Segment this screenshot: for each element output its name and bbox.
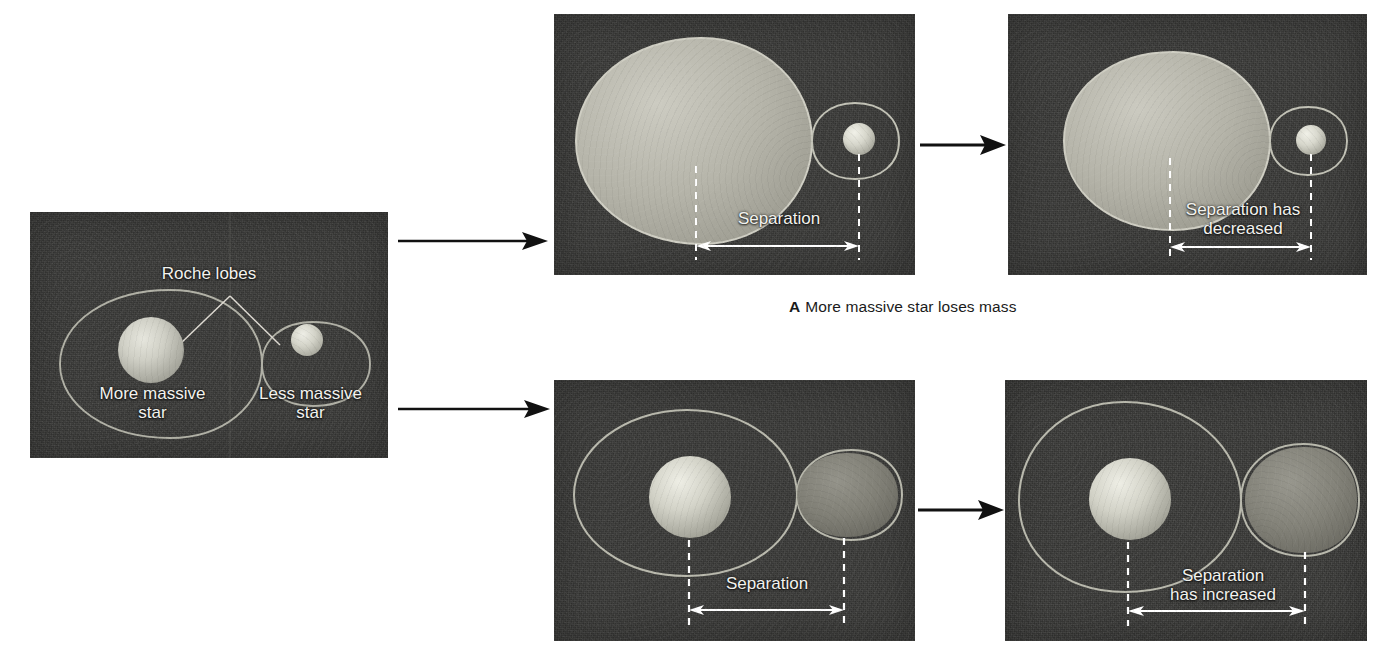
panel-a-before-transfer: Separation bbox=[554, 14, 915, 275]
arrow-b-before-to-b-after bbox=[918, 497, 1004, 523]
companion-star bbox=[843, 123, 875, 155]
roche-lobe-figure: Roche lobes More massive star Less massi… bbox=[0, 0, 1397, 665]
panel-initial-binary: Roche lobes More massive star Less massi… bbox=[30, 212, 388, 458]
star-primary bbox=[649, 456, 731, 538]
panel-b-before-transfer: Separation bbox=[554, 380, 915, 641]
arrow-initial-to-sequence-a bbox=[398, 228, 548, 254]
panel-b-after-graphic bbox=[1005, 380, 1367, 641]
arrow-a-before-to-a-after bbox=[920, 132, 1006, 158]
star-more-massive bbox=[118, 317, 184, 383]
caption-a-tag: A bbox=[789, 298, 800, 315]
roche-lobe-outline bbox=[60, 290, 370, 438]
star-secondary-filled bbox=[797, 453, 898, 537]
panel-initial-graphic bbox=[30, 212, 388, 458]
companion-star bbox=[1296, 125, 1326, 155]
caption-a-text: More massive star loses mass bbox=[805, 298, 1016, 315]
panel-a-after-graphic bbox=[1008, 14, 1367, 275]
separation-measure bbox=[1128, 542, 1305, 626]
star-less-massive bbox=[291, 324, 323, 356]
panel-b-after-transfer: Separation has increased bbox=[1005, 380, 1367, 641]
panel-b-before-graphic bbox=[554, 380, 915, 641]
lobe-filled-giant-star bbox=[1064, 52, 1270, 230]
star-primary bbox=[1089, 458, 1171, 540]
panel-a-after-transfer: Separation has decreased bbox=[1008, 14, 1367, 275]
arrow-initial-to-sequence-b bbox=[398, 396, 550, 422]
lobe-filled-giant-star bbox=[576, 38, 812, 244]
caption-a: AMore massive star loses mass bbox=[789, 298, 1017, 316]
star-secondary-filled bbox=[1245, 447, 1357, 553]
panel-a-before-graphic bbox=[554, 14, 915, 275]
